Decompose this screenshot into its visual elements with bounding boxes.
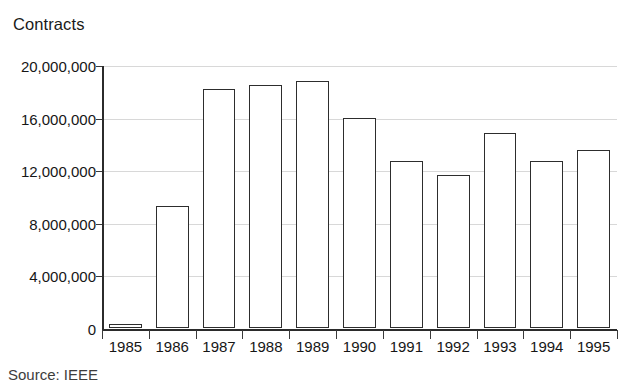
bar xyxy=(437,175,470,328)
x-axis-line xyxy=(102,329,617,331)
bar xyxy=(390,161,423,328)
y-axis-tick-label: 8,000,000 xyxy=(29,215,96,232)
y-axis-tick xyxy=(96,171,102,172)
y-axis-tick-label: 20,000,000 xyxy=(21,58,96,75)
x-axis-tick xyxy=(617,330,618,339)
y-axis-tick-labels: 04,000,0008,000,00012,000,00016,000,0002… xyxy=(0,66,96,331)
x-axis-tick-label: 1988 xyxy=(249,338,282,355)
x-axis-tick-label: 1986 xyxy=(156,338,189,355)
bar xyxy=(296,81,329,328)
y-axis-tick xyxy=(96,276,102,277)
y-axis-tick-label: 0 xyxy=(88,321,96,338)
bar xyxy=(109,324,142,328)
bar xyxy=(484,133,517,328)
y-axis-tick-label: 4,000,000 xyxy=(29,268,96,285)
source-note: Source: IEEE xyxy=(8,366,98,380)
x-axis-tick-label: 1990 xyxy=(343,338,376,355)
y-axis-tick-label: 12,000,000 xyxy=(21,163,96,180)
y-axis-tick xyxy=(96,66,102,67)
x-axis-tick-label: 1992 xyxy=(436,338,469,355)
plot-area xyxy=(102,66,617,330)
bar xyxy=(156,206,189,328)
x-axis-tick-label: 1995 xyxy=(577,338,610,355)
gridline xyxy=(104,66,617,67)
y-axis-line xyxy=(102,66,104,331)
y-axis-tick xyxy=(96,119,102,120)
bar xyxy=(577,150,610,328)
x-axis-tick-label: 1991 xyxy=(390,338,423,355)
y-axis-tick xyxy=(96,224,102,225)
chart-title: Contracts xyxy=(13,15,85,34)
x-axis-tick-label: 1985 xyxy=(109,338,142,355)
bar xyxy=(249,85,282,328)
x-axis-tick-labels: 1985198619871988198919901991199219931994… xyxy=(102,338,617,360)
x-axis-tick-label: 1993 xyxy=(483,338,516,355)
x-axis-tick-label: 1989 xyxy=(296,338,329,355)
bar xyxy=(203,89,236,328)
bar xyxy=(530,161,563,328)
x-axis-tick-label: 1994 xyxy=(530,338,563,355)
bar-chart-figure: Contracts 04,000,0008,000,00012,000,0001… xyxy=(0,0,621,380)
y-axis-tick-label: 16,000,000 xyxy=(21,110,96,127)
bar xyxy=(343,118,376,328)
x-axis-tick-label: 1987 xyxy=(202,338,235,355)
